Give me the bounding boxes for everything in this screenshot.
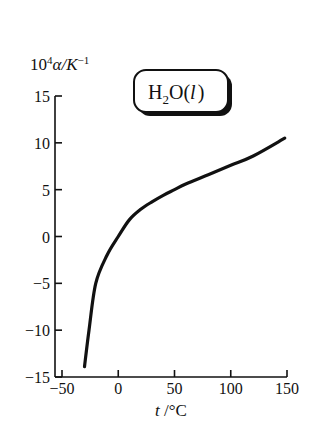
x-tick-label: 50 (167, 380, 183, 397)
data-line-h2o (85, 138, 285, 367)
y-tick-label: −5 (33, 275, 50, 292)
x-tick-label: 0 (114, 380, 122, 397)
legend: H2O(l) (134, 70, 232, 116)
y-tick-label: −10 (25, 322, 50, 339)
x-axis-title: t /°C (155, 401, 187, 420)
y-tick-label: 15 (34, 88, 50, 105)
chart: 104α/K−1 H2O(l) 151050−5−10−15−500501001… (0, 0, 328, 444)
x-tick-label: 150 (275, 380, 299, 397)
y-tick-label: 5 (42, 182, 50, 199)
y-tick-label: 10 (34, 135, 50, 152)
y-tick-label: −15 (25, 369, 50, 386)
y-axis-title: 104α/K−1 (30, 54, 89, 74)
x-tick-label: 100 (219, 380, 243, 397)
y-tick-label: 0 (42, 229, 50, 246)
ticks: 151050−5−10−15−50050100150 (25, 88, 299, 397)
x-tick-label: −50 (49, 380, 74, 397)
